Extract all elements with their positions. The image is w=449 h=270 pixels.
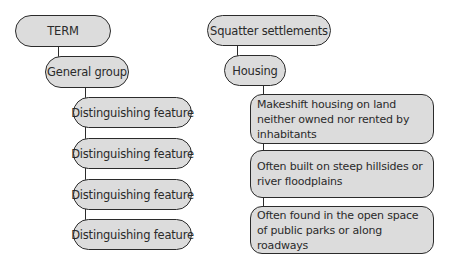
feature-node: Makeshift housing on land neither owned … bbox=[250, 94, 434, 144]
feature-node: Distinguishing feature bbox=[73, 97, 192, 128]
term-node: TERM bbox=[15, 15, 111, 47]
feature-node: Often found in the open space of public … bbox=[250, 206, 434, 254]
feature-node: Distinguishing feature bbox=[73, 219, 192, 250]
general-group-node: General group bbox=[45, 56, 129, 88]
general-group-node: Housing bbox=[224, 55, 286, 86]
feature-node: Often built on steep hillsides or river … bbox=[250, 150, 434, 198]
feature-node: Distinguishing feature bbox=[73, 138, 192, 169]
feature-node: Distinguishing feature bbox=[73, 179, 192, 210]
term-node: Squatter settlements bbox=[207, 15, 331, 46]
